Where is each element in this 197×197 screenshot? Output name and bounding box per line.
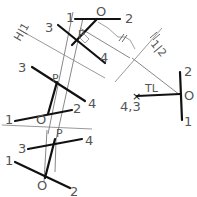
label-aux2-1: 1 (184, 114, 192, 129)
label-aux1-4: 4 (88, 96, 96, 111)
label-true-length: TL (144, 82, 159, 95)
label-aux2-2: 2 (184, 64, 192, 79)
label-front-O: O (37, 178, 47, 193)
label-aux1-1: 1 (5, 112, 13, 127)
label-top-3: 3 (45, 20, 53, 35)
label-point-43: 4,3 (120, 99, 141, 114)
label-top-O: O (96, 4, 106, 19)
label-aux1-P: P (52, 72, 59, 85)
dimension-arrow (98, 22, 135, 49)
label-fold-h1: H|1 (11, 21, 32, 44)
aux2-line-12 (180, 72, 182, 120)
aux2-true-length-line (137, 94, 180, 96)
label-top-4: 4 (100, 50, 108, 65)
label-front-3: 3 (18, 141, 26, 156)
descriptive-geometry-diagram: × 1 O 2 3 P 4 H|1 1|2 3 P 4 1 O 2 P 3 4 … (0, 0, 197, 197)
label-aux1-3: 3 (18, 60, 26, 75)
label-front-P: P (56, 127, 63, 140)
label-aux1-2: 2 (73, 101, 81, 116)
label-front-4: 4 (85, 133, 93, 148)
label-front-2: 2 (70, 184, 78, 197)
fold-line-front (2, 125, 92, 129)
label-top-P: P (78, 28, 85, 41)
label-front-1: 1 (5, 153, 13, 168)
label-top-1: 1 (66, 10, 74, 25)
label-top-2: 2 (125, 11, 133, 26)
label-aux2-O: O (184, 88, 194, 103)
label-aux1-O: O (36, 112, 46, 127)
